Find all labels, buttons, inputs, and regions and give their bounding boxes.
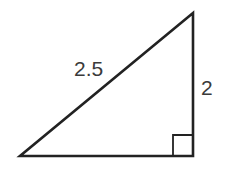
- right-triangle: [20, 13, 193, 156]
- right-angle-marker: [173, 135, 193, 156]
- vertical-leg-label: 2: [201, 76, 213, 99]
- triangle-diagram: 2.5 2: [0, 0, 237, 173]
- hypotenuse-label: 2.5: [74, 57, 103, 80]
